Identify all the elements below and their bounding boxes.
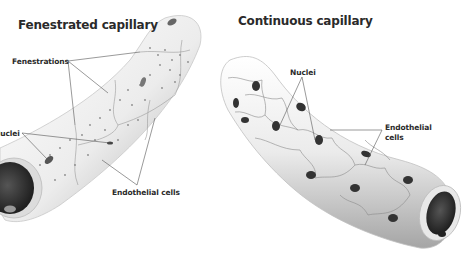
- continuous-capillary: [221, 56, 467, 248]
- label-endothelial-cells-left: Endothelial cells: [112, 188, 180, 197]
- continuous-capillary-title: Continuous capillary: [238, 14, 373, 28]
- label-endothelial-cells-right-line2: cells: [385, 133, 404, 142]
- fenestrated-capillary-title: Fenestrated capillary: [18, 18, 158, 32]
- label-nuclei-left: Nuclei: [0, 129, 20, 138]
- label-endothelial-cells-right-line1: Endothelial: [385, 123, 432, 132]
- label-nuclei-right: Nuclei: [290, 68, 316, 77]
- label-fenestrations: Fenestrations: [12, 57, 69, 66]
